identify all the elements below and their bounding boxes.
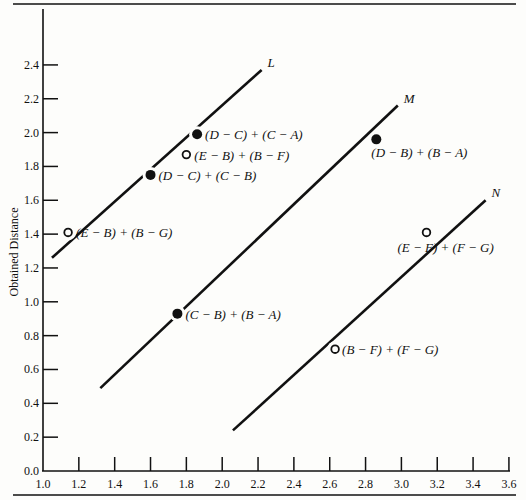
line-label-L: L (267, 55, 275, 70)
open-point-marker (64, 229, 72, 237)
data-points: (D − C) + (C − A)(E − B) + (B − F)(D − C… (60, 126, 494, 357)
point-label: (C − B) + (B − A) (185, 307, 280, 322)
filled-point-marker (146, 170, 156, 180)
y-axis-title: Obtained Distance (7, 208, 21, 297)
y-tick-label: 1.4 (24, 227, 39, 241)
y-tick-label: 1.2 (24, 261, 39, 275)
line-label-M: M (403, 91, 416, 106)
open-point-marker (183, 151, 191, 159)
x-tick-label: 1.4 (107, 477, 122, 491)
x-tick-label: 3.6 (501, 477, 516, 491)
chart: 0.00.20.40.60.81.01.21.41.61.82.02.22.4 … (0, 0, 526, 500)
x-tick-label: 3.4 (466, 477, 481, 491)
x-tick-label: 2.0 (215, 477, 230, 491)
point-label: (D − C) + (C − A) (205, 127, 303, 142)
y-tick-label: 1.8 (24, 159, 39, 173)
x-tick-label: 2.2 (251, 477, 266, 491)
filled-point-marker (172, 309, 182, 319)
point-label: (E − B) + (B − F) (194, 148, 289, 163)
open-point-marker (331, 345, 339, 353)
y-tick-label: 2.0 (24, 126, 39, 140)
point-label: (D − C) + (C − B) (159, 168, 257, 183)
open-point-marker (423, 229, 431, 237)
y-tick-label: 0.0 (24, 464, 39, 478)
filled-point-marker (192, 129, 202, 139)
x-tick-label: 2.8 (358, 477, 373, 491)
filled-point-marker (371, 134, 381, 144)
y-tick-label: 0.4 (24, 396, 39, 410)
x-tick-label: 3.0 (394, 477, 409, 491)
x-tick-label: 1.2 (71, 477, 86, 491)
x-ticks: 1.01.21.41.61.82.02.22.42.62.83.03.23.43… (36, 457, 517, 491)
y-tick-label: 0.6 (24, 362, 39, 376)
y-tick-label: 1.0 (24, 295, 39, 309)
line-label-N: N (491, 185, 502, 200)
y-tick-label: 1.6 (24, 193, 39, 207)
x-tick-label: 2.6 (322, 477, 337, 491)
x-tick-label: 2.4 (286, 477, 301, 491)
y-tick-label: 0.2 (24, 430, 39, 444)
y-tick-label: 0.8 (24, 329, 39, 343)
x-tick-label: 3.2 (430, 477, 445, 491)
x-tick-label: 1.0 (36, 477, 51, 491)
point-label: (E − B) + (B − G) (76, 225, 172, 240)
y-tick-label: 2.2 (24, 92, 39, 106)
x-tick-label: 1.6 (143, 477, 158, 491)
point-label: (B − F) + (F − G) (342, 342, 438, 357)
point-label: (E − F) + (F − G) (397, 240, 493, 255)
point-label: (D − B) + (B − A) (371, 145, 467, 160)
y-tick-label: 2.4 (24, 58, 39, 72)
y-ticks: 0.00.20.40.60.81.01.21.41.61.82.02.22.4 (24, 58, 58, 478)
x-tick-label: 1.8 (179, 477, 194, 491)
